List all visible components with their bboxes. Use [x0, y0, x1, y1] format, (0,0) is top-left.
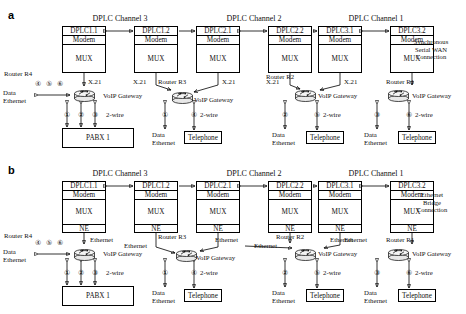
- connector-lines-b: [0, 155, 466, 314]
- panel-a: a DPLC Channel 3 DPLC Channel 2 DPLC Cha…: [0, 0, 466, 157]
- panel-b: b DPLC Channel 3 DPLC Channel 2 DPLC Cha…: [0, 155, 466, 314]
- connector-lines-a: [0, 0, 466, 157]
